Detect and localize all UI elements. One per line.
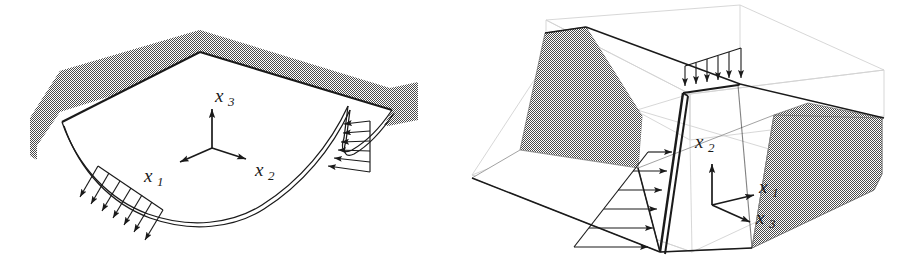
embankment-wedge-left [520, 27, 642, 170]
panel-curved-plate: x 3 x 2 x 1 [0, 0, 452, 274]
retaining-wall [660, 84, 752, 254]
axis-label-x2: x [694, 131, 704, 152]
axis-label-x3: x [214, 85, 224, 106]
axis-label-x1: x [758, 176, 768, 197]
axis-label-x3-sub: 3 [227, 94, 235, 109]
axis-label-x3: x [755, 207, 765, 228]
axis-label-x1-sub: 1 [772, 185, 779, 200]
axis-label-x1: x [143, 165, 153, 186]
figure-container: x 3 x 2 x 1 [0, 0, 905, 274]
axis-label-x3-sub: 3 [768, 216, 776, 231]
axis-label-x2-sub: 2 [268, 168, 275, 183]
axis-label-x2: x [254, 159, 264, 180]
axis-label-x1-sub: 1 [157, 174, 164, 189]
axis-label-x2-sub: 2 [708, 140, 715, 155]
panel-retaining-wall: x 2 x 1 x 3 [452, 0, 905, 274]
axis-x3-arrow [712, 205, 750, 222]
retaining-wall-drawing: x 2 x 1 x 3 [452, 0, 905, 274]
ground-plane-center [638, 115, 774, 252]
curved-plate-drawing: x 3 x 2 x 1 [0, 0, 452, 274]
